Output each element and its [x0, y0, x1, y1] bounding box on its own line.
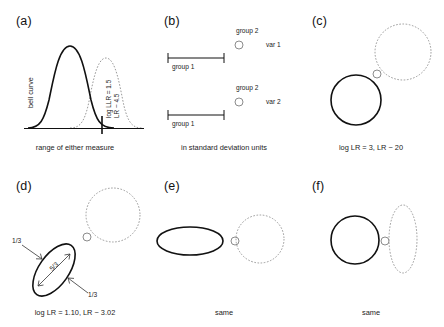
panel-b-row-1-group1-label: group 1: [172, 63, 194, 70]
group1-wide-ellipse: [157, 227, 223, 255]
group2-dotted-circle: [375, 24, 431, 80]
panel-b-row-1-var-label: var 1: [266, 41, 281, 48]
panel-b-row-1-group2-label: group 2: [236, 27, 258, 34]
minor-axis-arrow-upper: [22, 245, 42, 259]
panel-b-row-1-group2-marker: [232, 38, 246, 52]
group1-solid-circle: [331, 216, 379, 264]
panel-d-arrow-label-lower: 1/3: [88, 291, 97, 298]
panel-b-caption: in standard deviation units: [150, 143, 298, 152]
panel-a-caption: range of either measure: [0, 143, 150, 152]
group2-tall-dotted-ellipse: [389, 205, 417, 273]
minor-axis-arrow-lower: [68, 278, 88, 293]
panel-a-annotation-loglr: log LLR = 1.5: [105, 80, 113, 118]
panel-d-arrow-label-upper: 1/3: [12, 237, 21, 244]
group2-point-circle: [373, 70, 381, 78]
panel-d: (d) 1/3 1/3 5/3 log LR = 1.10, LR ~ 3.02: [0, 163, 150, 327]
panel-d-caption: log LR = 1.10, LR ~ 3.02: [0, 308, 150, 317]
panel-e: (e) same: [150, 163, 298, 327]
group2-dotted-circle: [86, 188, 140, 242]
panel-a-annotation-lr: LR ~ 4.5: [113, 80, 121, 118]
panel-c-caption: log LR = 3, LR ~ 20: [298, 143, 444, 152]
group2-point-circle: [235, 41, 243, 49]
panel-b-row-2-var-label: var 2: [266, 98, 281, 105]
group1-solid-circle: [331, 75, 381, 125]
group2-point-circle: [231, 237, 239, 245]
panel-c-plot: [298, 12, 444, 142]
panel-f-caption: same: [298, 308, 444, 317]
panel-b: (b) group 2 var 1 group 1 group 2 var 2 …: [150, 0, 298, 163]
panel-d-plot: [0, 177, 150, 305]
panel-b-label: (b): [164, 14, 180, 28]
group2-point-circle: [381, 237, 389, 245]
group-1-bell-curve: [28, 46, 114, 128]
panel-e-plot: [150, 177, 298, 305]
group2-point-circle: [83, 233, 91, 241]
panel-a-annotation: log LLR = 1.5 LR ~ 4.5: [105, 80, 120, 118]
panel-b-row-2-group2-marker: [232, 95, 246, 109]
panel-c: (c) log LR = 3, LR ~ 20: [298, 0, 444, 163]
panel-b-row-2-group1-label: group 1: [172, 120, 194, 127]
panel-e-caption: same: [150, 308, 298, 317]
panel-f-plot: [298, 177, 444, 305]
group2-point-circle: [235, 98, 243, 106]
panel-a: (a) bell curve log LLR = 1.5 LR ~ 4.5 ra…: [0, 0, 150, 163]
panel-f: (f) same: [298, 163, 444, 327]
panel-b-row-2-group2-label: group 2: [236, 84, 258, 91]
group2-dotted-circle: [236, 215, 284, 263]
panel-a-plot: [18, 22, 148, 132]
